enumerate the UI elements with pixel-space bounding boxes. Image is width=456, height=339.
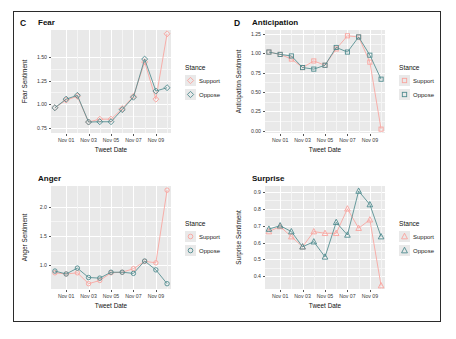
legend-stance: StanceSupportOppose — [399, 220, 434, 259]
legend-label: Support — [413, 234, 434, 240]
legend-key-support — [185, 231, 196, 242]
legend-title: Stance — [185, 64, 220, 71]
data-point-support — [311, 228, 317, 233]
ytick-mark — [49, 128, 51, 129]
xtick-mark — [325, 290, 326, 292]
legend-item-support[interactable]: Support — [185, 231, 220, 242]
legend-key-support — [399, 231, 410, 242]
ytick-mark — [263, 243, 265, 244]
legend-label: Oppose — [199, 248, 220, 254]
xtick-mark — [303, 134, 304, 136]
xtick-mark — [370, 290, 371, 292]
xtick-mark — [89, 134, 90, 136]
ytick-mark — [263, 131, 265, 132]
xtick-mark — [280, 290, 281, 292]
figure-panel-group: CFear0.751.001.251.50Nov 01Nov 03Nov 05N… — [13, 11, 441, 322]
data-point-oppose — [164, 85, 170, 91]
legend-item-support[interactable]: Support — [399, 75, 434, 86]
xtick-mark — [89, 290, 90, 292]
panel-surprise: Surprise0.40.50.60.70.80.9Nov 01Nov 03No… — [228, 168, 442, 323]
plot-area-surprise — [265, 186, 385, 289]
legend-label: Support — [413, 78, 434, 84]
series-line-oppose — [55, 261, 167, 284]
panel-anticipation: DAnticipation0.000.250.500.751.001.25Nov… — [228, 12, 442, 167]
legend-label: Support — [199, 78, 220, 84]
xtick-mark — [156, 290, 157, 292]
legend-marker-diamond-icon — [185, 75, 196, 86]
ytick-mark — [263, 276, 265, 277]
legend-stance: StanceSupportOppose — [399, 64, 434, 103]
axis-title-x: Tweet Date — [265, 146, 385, 153]
series-line-support — [269, 209, 381, 286]
xtick-mark — [325, 134, 326, 136]
legend-key-oppose — [399, 245, 410, 256]
legend-marker-triangle-icon — [399, 231, 410, 242]
xtick-mark — [347, 290, 348, 292]
series-layer — [51, 186, 171, 289]
ytick-mark — [263, 209, 265, 210]
legend-marker-diamond-icon — [185, 89, 196, 100]
axis-title-y: Surprise Sentiment — [235, 186, 242, 289]
axis-title-y: Anger Sentiment — [21, 186, 28, 289]
legend-key-oppose — [185, 245, 196, 256]
legend-item-oppose[interactable]: Oppose — [185, 89, 220, 100]
axis-title-x: Tweet Date — [51, 146, 171, 153]
xtick-mark — [133, 290, 134, 292]
legend-marker-square-icon — [399, 75, 410, 86]
legend-key-support — [185, 75, 196, 86]
legend-key-oppose — [399, 89, 410, 100]
legend-item-support[interactable]: Support — [185, 75, 220, 86]
xtick-label: Nov 09 — [355, 293, 385, 299]
data-point-oppose — [165, 281, 169, 285]
legend-title: Stance — [185, 220, 220, 227]
legend-item-oppose[interactable]: Oppose — [399, 89, 434, 100]
legend-item-oppose[interactable]: Oppose — [399, 245, 434, 256]
axis-title-x: Tweet Date — [265, 302, 385, 309]
legend-marker-circle-icon — [185, 231, 196, 242]
panel-title-surprise: Surprise — [252, 174, 284, 183]
ytick-mark — [263, 34, 265, 35]
series-line-oppose — [269, 37, 381, 79]
ytick-mark — [263, 226, 265, 227]
legend-key-support — [399, 75, 410, 86]
legend-marker-triangle-icon — [399, 245, 410, 256]
series-line-support — [269, 36, 381, 129]
plot-area-anticipation — [265, 30, 385, 133]
ytick-mark — [263, 259, 265, 260]
xtick-mark — [66, 290, 67, 292]
ytick-mark — [263, 53, 265, 54]
ytick-mark — [49, 265, 51, 266]
plot-area-fear — [51, 30, 171, 133]
axis-title-y: Anticipation Sentiment — [235, 30, 242, 133]
xtick-mark — [111, 290, 112, 292]
ytick-mark — [49, 207, 51, 208]
xtick-mark — [347, 134, 348, 136]
panel-tag-d: D — [234, 18, 240, 28]
axis-title-y: Fear Sentiment — [21, 30, 28, 133]
ytick-mark — [49, 236, 51, 237]
series-line-support — [55, 34, 167, 122]
ytick-mark — [49, 81, 51, 82]
legend-stance: StanceSupportOppose — [185, 220, 220, 259]
axis-title-x: Tweet Date — [51, 302, 171, 309]
legend-item-oppose[interactable]: Oppose — [185, 245, 220, 256]
ytick-mark — [263, 111, 265, 112]
legend-item-support[interactable]: Support — [399, 231, 434, 242]
xtick-label: Nov 09 — [141, 293, 171, 299]
legend-title: Stance — [399, 64, 434, 71]
xtick-mark — [111, 134, 112, 136]
legend-marker-square-icon — [399, 89, 410, 100]
legend-label: Support — [199, 234, 220, 240]
panel-title-fear: Fear — [38, 18, 55, 27]
xtick-mark — [66, 134, 67, 136]
series-layer — [51, 30, 171, 133]
panel-title-anger: Anger — [38, 174, 61, 183]
xtick-mark — [156, 134, 157, 136]
legend-label: Oppose — [199, 92, 220, 98]
panel-anger: Anger1.01.52.0Nov 01Nov 03Nov 05Nov 07No… — [14, 168, 228, 323]
series-layer — [265, 30, 385, 133]
xtick-mark — [280, 134, 281, 136]
series-layer — [265, 186, 385, 289]
series-line-oppose — [55, 59, 167, 122]
ytick-mark — [263, 73, 265, 74]
